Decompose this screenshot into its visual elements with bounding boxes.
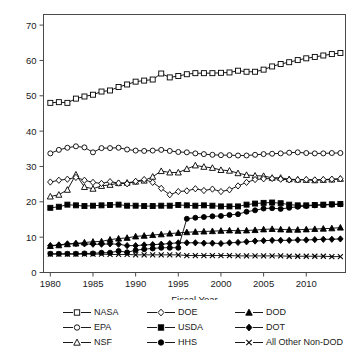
data-point bbox=[235, 183, 241, 189]
legend-item-dod[interactable]: DOD bbox=[234, 304, 352, 319]
y-axis-tick-label: 60 bbox=[26, 55, 37, 66]
data-point bbox=[218, 204, 223, 209]
y-axis-tick-label: 50 bbox=[26, 90, 37, 101]
data-point bbox=[304, 237, 310, 243]
legend-marker-filled-square-icon bbox=[146, 320, 176, 333]
data-point bbox=[278, 151, 283, 156]
data-point bbox=[125, 147, 130, 152]
data-point bbox=[90, 179, 96, 185]
series-nasa bbox=[48, 51, 343, 106]
legend-label: DOT bbox=[264, 322, 285, 332]
legend-row: NASADOEDOD bbox=[62, 304, 352, 319]
legend-item-nasa[interactable]: NASA bbox=[62, 304, 146, 319]
data-point bbox=[218, 188, 224, 194]
series-group bbox=[47, 51, 343, 260]
data-point bbox=[184, 72, 189, 77]
data-point bbox=[167, 75, 172, 80]
data-point bbox=[65, 100, 70, 105]
legend-label: HHS bbox=[176, 337, 197, 347]
legend-item-hhs[interactable]: HHS bbox=[146, 334, 234, 349]
data-point bbox=[159, 147, 164, 152]
data-point bbox=[321, 151, 326, 156]
data-point bbox=[338, 236, 344, 242]
data-point bbox=[150, 77, 155, 82]
data-point bbox=[133, 203, 138, 208]
legend-row: NSFHHSAll Other Non-DOD bbox=[62, 334, 352, 349]
data-point bbox=[82, 204, 87, 209]
data-point bbox=[56, 204, 61, 209]
data-point bbox=[201, 152, 206, 157]
data-point bbox=[329, 202, 334, 207]
data-point bbox=[158, 168, 164, 174]
legend-item-all-other-non-dod[interactable]: All Other Non-DOD bbox=[234, 334, 352, 349]
data-point bbox=[184, 203, 189, 208]
legend-item-usda[interactable]: USDA bbox=[146, 319, 234, 334]
legend-item-epa[interactable]: EPA bbox=[62, 319, 146, 334]
data-point bbox=[270, 64, 275, 69]
legend-item-doe[interactable]: DOE bbox=[146, 304, 234, 319]
data-point bbox=[201, 240, 207, 246]
data-point bbox=[235, 239, 241, 245]
data-point bbox=[48, 151, 53, 156]
legend-label: USDA bbox=[176, 322, 203, 332]
data-point bbox=[82, 145, 87, 150]
data-point bbox=[56, 192, 62, 198]
series-epa bbox=[48, 144, 343, 158]
data-point bbox=[338, 202, 343, 207]
data-point bbox=[107, 179, 113, 185]
legend-label: NSF bbox=[92, 337, 112, 347]
data-point bbox=[261, 152, 266, 157]
data-point bbox=[176, 149, 181, 154]
y-axis-tick-label: 0 bbox=[31, 267, 36, 278]
data-point bbox=[227, 212, 232, 217]
data-point bbox=[90, 203, 95, 208]
x-axis-tick-label: 2000 bbox=[210, 278, 231, 289]
data-point bbox=[56, 147, 61, 152]
legend-item-nsf[interactable]: NSF bbox=[62, 334, 146, 349]
data-point bbox=[184, 166, 190, 172]
data-point bbox=[253, 201, 258, 206]
x-axis-tick-label: 1980 bbox=[40, 278, 61, 289]
x-axis-tick-label: 2005 bbox=[253, 278, 274, 289]
data-point bbox=[108, 146, 113, 151]
data-point bbox=[124, 181, 130, 187]
data-point bbox=[193, 203, 198, 208]
data-point bbox=[252, 238, 258, 244]
line-chart-svg: 0102030405060701980198519901995200020052… bbox=[0, 0, 357, 300]
y-axis-tick-label: 70 bbox=[26, 20, 37, 31]
y-axis-tick-label: 40 bbox=[26, 126, 37, 137]
data-point bbox=[82, 94, 87, 99]
data-point bbox=[321, 236, 327, 242]
data-point bbox=[218, 70, 223, 75]
legend-item-dot[interactable]: DOT bbox=[234, 319, 352, 334]
data-point bbox=[227, 204, 232, 209]
data-point bbox=[73, 144, 78, 149]
data-point bbox=[270, 206, 275, 211]
data-point bbox=[304, 56, 309, 61]
y-axis-tick-label: 10 bbox=[26, 232, 37, 243]
data-point bbox=[116, 241, 122, 247]
data-point bbox=[193, 215, 198, 220]
series-doe bbox=[48, 174, 344, 198]
y-axis-tick-label: 30 bbox=[26, 161, 37, 172]
data-point bbox=[244, 209, 249, 214]
x-axis-tick-label: 1985 bbox=[82, 278, 103, 289]
data-point bbox=[193, 240, 199, 246]
data-point bbox=[201, 215, 206, 220]
legend-label: All Other Non-DOD bbox=[264, 337, 343, 347]
data-point bbox=[218, 240, 224, 246]
data-point bbox=[236, 204, 241, 209]
x-axis-tick-label: 2010 bbox=[296, 278, 317, 289]
data-point bbox=[133, 243, 139, 249]
data-point bbox=[125, 82, 130, 87]
data-point bbox=[159, 71, 164, 76]
x-axis-tick-label: 1990 bbox=[125, 278, 146, 289]
data-point bbox=[261, 206, 266, 211]
data-point bbox=[227, 187, 233, 193]
data-point bbox=[227, 153, 232, 158]
data-point bbox=[295, 58, 300, 63]
data-point bbox=[304, 204, 309, 209]
data-point bbox=[218, 213, 223, 218]
data-point bbox=[286, 237, 292, 243]
data-point bbox=[184, 150, 189, 155]
